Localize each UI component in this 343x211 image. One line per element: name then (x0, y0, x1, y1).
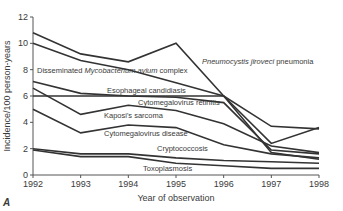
series-label: Toxoplasmosis (143, 164, 192, 173)
series-label: Kaposi's sarcoma (104, 111, 164, 120)
chart-canvas: 0246810121992199319941995199619971998 Di… (0, 0, 343, 211)
y-tick-label: 2 (23, 144, 28, 154)
series-label: Esophageal candidiasis (107, 86, 186, 95)
x-tick-label: 1996 (214, 179, 234, 189)
series-label: Pneumocystis jiroveci pneumonia (202, 57, 314, 66)
x-tick-label: 1993 (71, 179, 91, 189)
y-tick-label: 10 (18, 38, 28, 48)
y-tick-label: 8 (23, 65, 28, 75)
x-tick-label: 1997 (261, 179, 281, 189)
series-label: Cryptococcosis (157, 144, 208, 153)
series-label: Cytomegalovirus retinitis (138, 98, 220, 107)
series-label: Disseminated Mycobacterium avium complex (37, 66, 188, 75)
y-tick-label: 12 (18, 12, 28, 22)
panel-label: A (2, 197, 10, 208)
series-label: Cytomegalovirus disease (104, 129, 188, 138)
x-tick-label: 1994 (118, 179, 138, 189)
x-tick-label: 1995 (166, 179, 186, 189)
incidence-line-chart: 0246810121992199319941995199619971998 Di… (0, 0, 343, 211)
x-axis-label: Year of observation (137, 193, 214, 203)
y-tick-label: 4 (23, 117, 28, 127)
y-axis-label: Incidence/100 person-years (2, 40, 12, 152)
x-tick-label: 1992 (23, 179, 43, 189)
x-tick-label: 1998 (309, 179, 329, 189)
y-tick-label: 6 (23, 91, 28, 101)
